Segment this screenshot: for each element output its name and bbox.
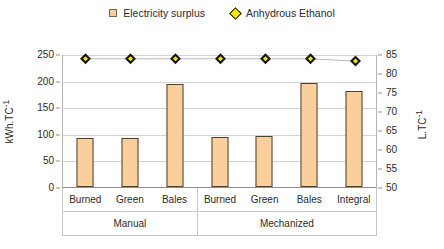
category-label-1: Green bbox=[108, 188, 153, 211]
left-tick-mark bbox=[56, 188, 60, 189]
diamond-swatch-icon bbox=[229, 7, 242, 20]
group-axis-labels: ManualMechanized bbox=[62, 212, 377, 236]
left-tick-label: 200 bbox=[37, 77, 54, 87]
chart-container: Electricity surplus Anhydrous Ethanol kW… bbox=[0, 0, 444, 249]
right-tick-label: 70 bbox=[386, 107, 397, 117]
data-point-marker-3[interactable] bbox=[217, 55, 225, 63]
left-tick-label: 150 bbox=[37, 103, 54, 113]
data-point-marker-4[interactable] bbox=[262, 55, 270, 63]
right-axis-title-base: L.TC bbox=[418, 118, 429, 140]
plot-area bbox=[62, 55, 377, 188]
right-tick-mark bbox=[378, 169, 382, 170]
bar-swatch-icon bbox=[109, 9, 117, 17]
category-label-3: Burned bbox=[198, 188, 243, 211]
left-tick-mark bbox=[56, 108, 60, 109]
right-tick-label: 55 bbox=[386, 164, 397, 174]
right-tick-mark bbox=[378, 112, 382, 113]
right-tick-label: 85 bbox=[386, 50, 397, 60]
marker-series-anhydrous-ethanol bbox=[63, 55, 378, 188]
group-label-manual: Manual bbox=[63, 212, 197, 235]
right-tick-label: 50 bbox=[386, 183, 397, 193]
right-tick-label: 80 bbox=[386, 69, 397, 79]
group-label-mechanized: Mechanized bbox=[198, 212, 376, 235]
data-point-marker-6[interactable] bbox=[352, 57, 360, 65]
left-axis-title: kWh.TC-1 bbox=[2, 55, 16, 188]
legend-label-electricity-surplus: Electricity surplus bbox=[123, 8, 205, 19]
category-label-0: Burned bbox=[63, 188, 108, 211]
right-tick-mark bbox=[378, 93, 382, 94]
chart-legend: Electricity surplus Anhydrous Ethanol bbox=[0, 4, 444, 22]
right-tick-label: 65 bbox=[386, 126, 397, 136]
legend-item-anhydrous-ethanol[interactable]: Anhydrous Ethanol bbox=[231, 8, 335, 19]
left-axis-title-exponent: -1 bbox=[1, 100, 11, 107]
right-tick-label: 60 bbox=[386, 145, 397, 155]
category-axis-labels: BurnedGreenBalesBurnedGreenBalesIntegral bbox=[62, 188, 377, 212]
data-point-marker-0[interactable] bbox=[82, 55, 90, 63]
right-tick-mark bbox=[378, 131, 382, 132]
legend-item-electricity-surplus[interactable]: Electricity surplus bbox=[109, 8, 205, 19]
left-tick-label: 100 bbox=[37, 130, 54, 140]
data-point-marker-1[interactable] bbox=[127, 55, 135, 63]
left-tick-label: 50 bbox=[43, 156, 54, 166]
left-axis-title-base: kWh.TC bbox=[5, 107, 16, 143]
category-label-4: Green bbox=[242, 188, 287, 211]
data-point-marker-2[interactable] bbox=[172, 55, 180, 63]
left-tick-mark bbox=[56, 134, 60, 135]
right-tick-mark bbox=[378, 188, 382, 189]
category-label-5: Bales bbox=[287, 188, 332, 211]
left-tick-mark bbox=[56, 161, 60, 162]
legend-label-anhydrous-ethanol: Anhydrous Ethanol bbox=[246, 8, 335, 19]
right-axis-title: L.TC-1 bbox=[414, 80, 430, 170]
right-tick-mark bbox=[378, 150, 382, 151]
left-tick-mark bbox=[56, 55, 60, 56]
left-tick-mark bbox=[56, 81, 60, 82]
left-axis-ticks: 050100150200250 bbox=[18, 55, 60, 188]
category-label-2: Bales bbox=[152, 188, 197, 211]
left-tick-label: 0 bbox=[48, 183, 54, 193]
right-tick-mark bbox=[378, 74, 382, 75]
right-axis-title-exponent: -1 bbox=[414, 110, 424, 117]
category-label-6: Integral bbox=[331, 188, 376, 211]
left-tick-label: 250 bbox=[37, 50, 54, 60]
right-axis-ticks: 5055606570758085 bbox=[378, 55, 412, 188]
right-tick-label: 75 bbox=[386, 88, 397, 98]
right-tick-mark bbox=[378, 55, 382, 56]
data-point-marker-5[interactable] bbox=[307, 55, 315, 63]
